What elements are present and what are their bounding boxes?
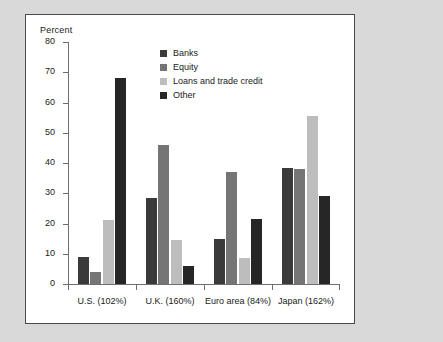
x-axis-group-label: U.K. (160%) <box>145 296 194 306</box>
x-axis-tick <box>136 285 137 290</box>
bar <box>115 78 126 284</box>
bar <box>226 172 237 284</box>
x-axis-group-label: Euro area (84%) <box>205 296 271 306</box>
x-axis-tick <box>339 285 340 290</box>
y-axis-tick: 10 <box>63 254 68 255</box>
bar <box>239 258 250 284</box>
y-axis-tick: 80 <box>63 42 68 43</box>
bar <box>146 198 157 284</box>
bar <box>294 169 305 284</box>
bar <box>214 239 225 284</box>
chart-figure-frame: Percent BanksEquityLoans and trade credi… <box>25 14 355 324</box>
y-axis-tick: 70 <box>63 72 68 73</box>
bar <box>319 196 330 284</box>
x-axis-tick <box>204 285 205 290</box>
bar <box>307 116 318 284</box>
x-axis-group-label: Japan (162%) <box>278 296 334 306</box>
y-axis-tick-label: 70 <box>45 66 55 76</box>
y-axis-tick: 20 <box>63 224 68 225</box>
y-axis-tick-label: 80 <box>45 36 55 46</box>
bar <box>78 257 89 284</box>
y-axis-tick-label: 40 <box>45 157 55 167</box>
y-axis-tick-label: 30 <box>45 187 55 197</box>
x-axis-tick <box>272 285 273 290</box>
plot-area: 01020304050607080U.S. (102%)U.K. (160%)E… <box>68 42 340 285</box>
y-axis-line <box>68 42 69 285</box>
y-axis-tick: 60 <box>63 103 68 104</box>
y-axis-tick-label: 20 <box>45 218 55 228</box>
x-axis-tick <box>68 285 69 290</box>
bar <box>103 220 114 284</box>
bar <box>90 272 101 284</box>
bar <box>183 266 194 284</box>
bar <box>282 168 293 284</box>
y-axis-tick: 50 <box>63 133 68 134</box>
y-axis-tick-label: 50 <box>45 127 55 137</box>
y-axis-title: Percent <box>40 25 72 35</box>
bar <box>251 219 262 284</box>
y-axis-tick-label: 60 <box>45 97 55 107</box>
bar <box>158 145 169 284</box>
x-axis-group-label: U.S. (102%) <box>77 296 126 306</box>
y-axis-tick-label: 0 <box>50 278 55 288</box>
y-axis-tick-label: 10 <box>45 248 55 258</box>
y-axis-tick: 30 <box>63 193 68 194</box>
bar <box>171 240 182 284</box>
y-axis-tick: 40 <box>63 163 68 164</box>
